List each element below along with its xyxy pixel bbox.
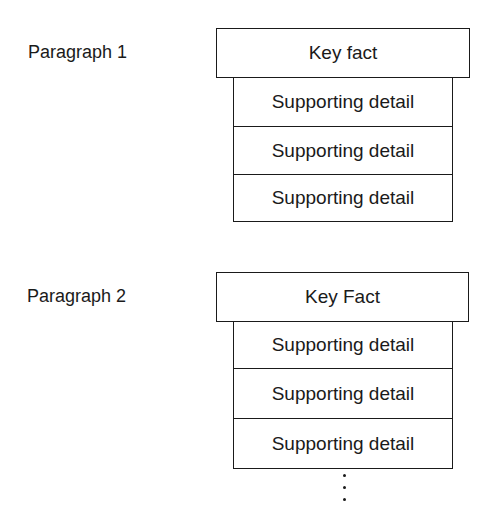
supporting-detail-box: Supporting detail [233, 368, 453, 419]
paragraph-1-label: Paragraph 1 [28, 41, 127, 63]
key-fact-box: Key Fact [216, 272, 469, 322]
supporting-detail-box: Supporting detail [233, 321, 453, 369]
supporting-detail-box: Supporting detail [233, 418, 453, 469]
paragraph-2-label: Paragraph 2 [27, 285, 126, 307]
key-fact-box: Key fact [216, 28, 470, 78]
supporting-detail-box: Supporting detail [233, 174, 453, 222]
continuation-ellipsis-icon [343, 474, 347, 510]
supporting-detail-box: Supporting detail [233, 126, 453, 175]
supporting-detail-box: Supporting detail [233, 77, 453, 127]
